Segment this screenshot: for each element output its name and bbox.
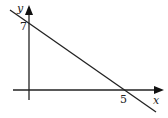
y-axis-label: y [16,2,24,15]
graph-line [10,10,156,112]
y-axis-arrow-icon [25,5,33,15]
x-axis-arrow-icon [154,86,164,94]
x-intercept-label: 5 [120,93,127,106]
x-axis-label: x [153,94,160,107]
y-intercept-label: 7 [20,20,27,33]
diagram-canvas: y 7 5 x [0,0,168,118]
